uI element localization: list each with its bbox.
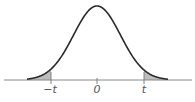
- tick-label-t: t: [142, 83, 147, 96]
- density-curve: [27, 6, 168, 79]
- tick-label-neg-t: −t: [43, 83, 57, 96]
- t-distribution-chart: −t 0 t: [0, 0, 195, 102]
- tick-label-zero: 0: [94, 83, 101, 96]
